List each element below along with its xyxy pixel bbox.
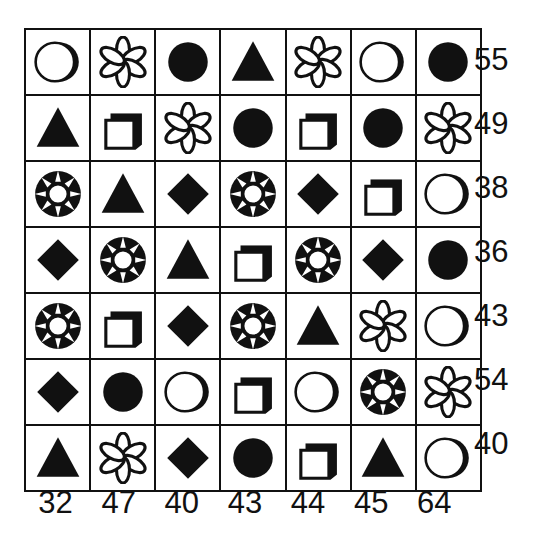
col-sum-3: 40 [150,480,213,526]
grid-cell-r3-c2[interactable] [90,161,155,227]
diamond-icon [156,162,219,226]
triangle-icon [156,228,219,292]
diamond-icon [26,228,89,292]
flower-icon [287,30,350,94]
grid-cell-r4-c2[interactable] [90,227,155,293]
moon-circle-icon [26,30,89,94]
grid-cell-r3-c3[interactable] [155,161,220,227]
grid-cell-r1-c3[interactable] [155,29,220,95]
column-sums-row: 32474043444564 [24,480,466,526]
grid-row [25,359,481,425]
grid-cell-r6-c3[interactable] [155,359,220,425]
grid-cell-r5-c2[interactable] [90,293,155,359]
grid-cell-r2-c2[interactable] [90,95,155,161]
flower-icon [91,30,154,94]
moon-circle-icon [417,294,480,358]
square-3d-icon [287,96,350,160]
shape-grid [24,28,482,492]
col-sum-6: 45 [340,480,403,526]
gem-icon [91,228,154,292]
col-sum-7: 64 [403,480,466,526]
grid-cell-r1-c7[interactable] [416,29,481,95]
row-sum-5: 43 [474,284,536,348]
grid-cell-r4-c1[interactable] [25,227,90,293]
gem-icon [287,228,350,292]
moon-circle-icon [352,30,415,94]
col-sum-2: 47 [87,480,150,526]
square-3d-icon [91,96,154,160]
row-sum-7: 40 [474,412,536,476]
grid-cell-r1-c1[interactable] [25,29,90,95]
grid-cell-r5-c5[interactable] [286,293,351,359]
filled-circle-icon [352,96,415,160]
grid-row [25,95,481,161]
gem-icon [26,294,89,358]
grid-cell-r2-c7[interactable] [416,95,481,161]
grid-cell-r3-c5[interactable] [286,161,351,227]
flower-icon [352,294,415,358]
grid-row [25,227,481,293]
triangle-icon [221,30,284,94]
flower-icon [417,96,480,160]
grid-row [25,161,481,227]
grid-cell-r2-c5[interactable] [286,95,351,161]
grid-cell-r4-c7[interactable] [416,227,481,293]
grid-cell-r4-c6[interactable] [351,227,416,293]
col-sum-4: 43 [213,480,276,526]
grid-cell-r1-c5[interactable] [286,29,351,95]
flower-icon [156,96,219,160]
filled-circle-icon [417,30,480,94]
flower-icon [417,360,480,424]
grid-cell-r2-c1[interactable] [25,95,90,161]
col-sum-1: 32 [24,480,87,526]
diamond-icon [156,294,219,358]
filled-circle-icon [156,30,219,94]
moon-circle-icon [417,162,480,226]
grid-cell-r6-c4[interactable] [220,359,285,425]
triangle-icon [91,162,154,226]
row-sums-column: 55493836435440 [474,28,536,476]
square-3d-icon [352,162,415,226]
grid-cell-r2-c3[interactable] [155,95,220,161]
grid-cell-r4-c3[interactable] [155,227,220,293]
diamond-icon [352,228,415,292]
grid-cell-r2-c6[interactable] [351,95,416,161]
row-sum-6: 54 [474,348,536,412]
grid-cell-r5-c4[interactable] [220,293,285,359]
filled-circle-icon [221,96,284,160]
grid-cell-r3-c1[interactable] [25,161,90,227]
triangle-icon [287,294,350,358]
grid-cell-r4-c5[interactable] [286,227,351,293]
grid-cell-r5-c3[interactable] [155,293,220,359]
grid-cell-r3-c7[interactable] [416,161,481,227]
grid-cell-r1-c6[interactable] [351,29,416,95]
row-sum-4: 36 [474,220,536,284]
gem-icon [352,360,415,424]
grid-cell-r2-c4[interactable] [220,95,285,161]
grid-cell-r5-c1[interactable] [25,293,90,359]
diamond-icon [287,162,350,226]
square-3d-icon [91,294,154,358]
gem-icon [26,162,89,226]
grid-cell-r6-c7[interactable] [416,359,481,425]
grid-cell-r3-c6[interactable] [351,161,416,227]
grid-cell-r1-c2[interactable] [90,29,155,95]
grid-cell-r6-c6[interactable] [351,359,416,425]
filled-circle-icon [417,228,480,292]
triangle-icon [26,96,89,160]
grid-cell-r1-c4[interactable] [220,29,285,95]
gem-icon [221,162,284,226]
square-3d-icon [221,228,284,292]
grid-cell-r5-c7[interactable] [416,293,481,359]
grid-row [25,293,481,359]
grid-cell-r6-c2[interactable] [90,359,155,425]
col-sum-5: 44 [277,480,340,526]
filled-circle-icon [91,360,154,424]
grid-cell-r6-c5[interactable] [286,359,351,425]
shape-sum-puzzle: 55493836435440 32474043444564 [0,0,543,553]
grid-cell-r6-c1[interactable] [25,359,90,425]
grid-cell-r4-c4[interactable] [220,227,285,293]
grid-cell-r5-c6[interactable] [351,293,416,359]
grid-cell-r3-c4[interactable] [220,161,285,227]
moon-circle-icon [287,360,350,424]
